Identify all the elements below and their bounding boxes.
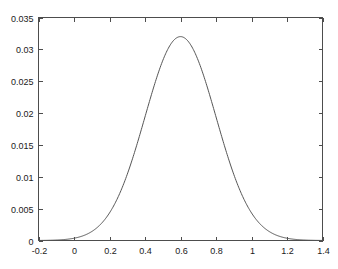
- figure-canvas: -0.200.20.40.60.811.21.400.0050.010.0150…: [0, 0, 338, 269]
- x-tick-label: 0.4: [139, 246, 152, 256]
- x-tick-label: 0.2: [104, 246, 117, 256]
- x-tick-label: 0.6: [175, 246, 188, 256]
- y-tick-label: 0.005: [11, 205, 34, 215]
- gaussian-line-chart: -0.200.20.40.60.811.21.400.0050.010.0150…: [0, 0, 338, 269]
- y-tick-label: 0.025: [11, 77, 34, 87]
- y-tick-label: 0.035: [11, 14, 34, 24]
- data-curve-gaussian: [39, 37, 323, 241]
- plot-box-frame: [39, 18, 323, 241]
- y-tick-label: 0.02: [16, 109, 34, 119]
- x-tick-label: 1.2: [281, 246, 294, 256]
- x-tick-label: 0.8: [210, 246, 223, 256]
- x-tick-label: -0.2: [32, 246, 48, 256]
- y-tick-label: 0: [28, 237, 33, 247]
- x-tick-label: 1: [250, 246, 255, 256]
- y-tick-label: 0.03: [16, 45, 34, 55]
- y-tick-label: 0.015: [11, 141, 34, 151]
- y-tick-label: 0.01: [16, 173, 34, 183]
- x-tick-label: 0: [72, 246, 77, 256]
- x-tick-label: 1.4: [317, 246, 330, 256]
- plot-area: -0.200.20.40.60.811.21.400.0050.010.0150…: [11, 14, 330, 256]
